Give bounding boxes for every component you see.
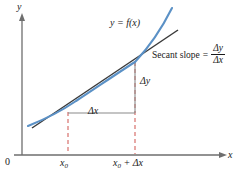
y-axis-arrowhead: [19, 13, 25, 21]
delta-y-over-delta-x-fraction: Δy Δx: [211, 44, 225, 66]
function-curve: [28, 8, 172, 126]
secant-slope-annotation: Secant slope = Δy Δx: [152, 44, 225, 66]
x-axis-label: x: [228, 150, 232, 160]
x0-delta-rest: + Δx: [121, 157, 143, 168]
equals-sign: =: [203, 50, 208, 60]
delta-x-label: Δx: [88, 106, 98, 116]
delta-y-label: Δy: [140, 76, 150, 86]
x-axis-arrowhead: [219, 152, 227, 158]
x-tick-label-x0: x0: [60, 158, 68, 170]
x-tick-label-x0-plus-delta-x: x0 + Δx: [113, 158, 143, 170]
function-label: y = f(x): [110, 18, 140, 28]
fraction-denominator: Δx: [211, 56, 225, 66]
x0-subscript: 0: [64, 162, 68, 170]
fraction-numerator: Δy: [211, 44, 225, 54]
secant-slope-text: Secant slope: [152, 50, 200, 60]
origin-label: 0: [5, 157, 10, 167]
y-axis-label: y: [17, 2, 21, 12]
secant-slope-figure: y x 0 y = f(x) Δx Δy x0 x0 + Δx Secant s…: [0, 0, 240, 180]
